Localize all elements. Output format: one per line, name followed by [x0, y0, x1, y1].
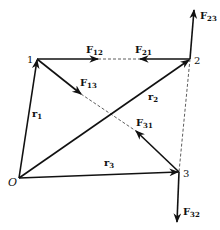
label-r3: r3: [104, 157, 114, 170]
force-F13: [37, 59, 81, 94]
force-diagram: O 1 2 3 r1 r2 r3 F12 F21 F13 F31 F23 F32: [0, 0, 220, 230]
label-F23: F23: [200, 10, 217, 23]
label-r2: r2: [148, 91, 158, 104]
label-F32: F32: [183, 206, 200, 219]
vector-r1: [19, 60, 37, 178]
force-F31: [136, 131, 179, 172]
forces: [37, 10, 194, 222]
label-point-2: 2: [194, 55, 200, 66]
force-F23: [190, 10, 194, 59]
vector-r3: [19, 172, 178, 178]
label-F12: F12: [86, 44, 103, 57]
label-point-3: 3: [183, 168, 189, 179]
label-F13: F13: [80, 77, 97, 90]
label-F21: F21: [135, 44, 152, 57]
label-point-1: 1: [27, 54, 33, 65]
dashed-lines: [81, 59, 190, 172]
dashed-line-2-3: [179, 59, 190, 172]
force-F32: [177, 172, 179, 222]
label-r1: r1: [32, 108, 42, 121]
label-origin: O: [8, 176, 17, 189]
dashed-line-1-3: [81, 94, 136, 131]
label-F31: F31: [136, 117, 153, 130]
